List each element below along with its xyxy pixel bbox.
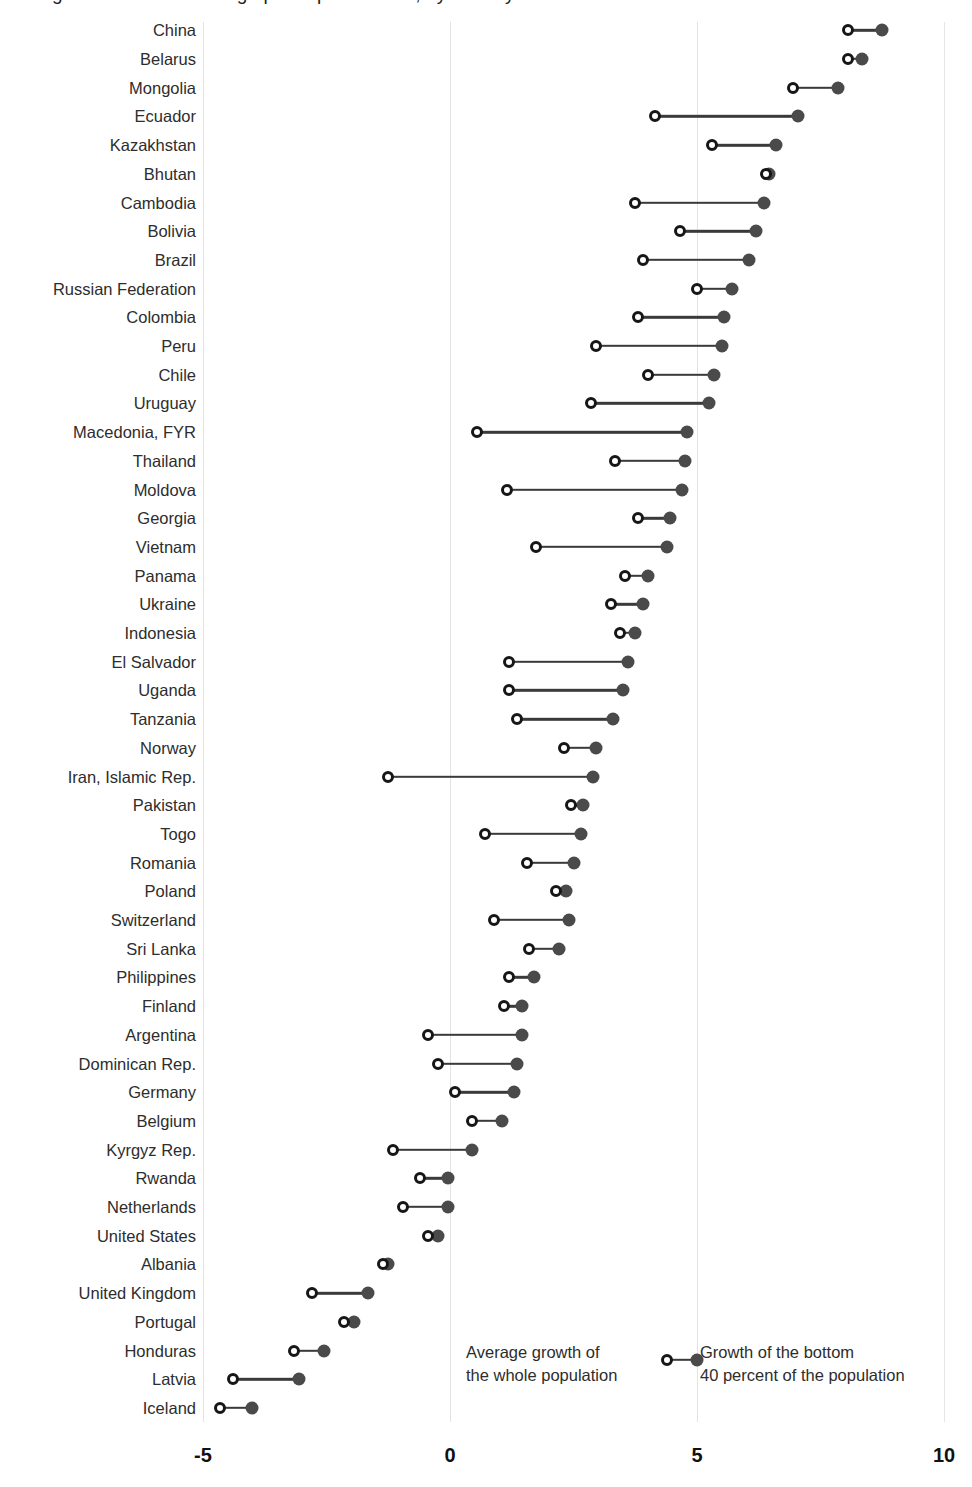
average-marker[interactable] [338, 1316, 350, 1328]
average-marker[interactable] [649, 110, 661, 122]
bottom40-marker[interactable] [587, 770, 600, 783]
country-label: Uganda [0, 681, 196, 700]
bottom40-marker[interactable] [725, 282, 738, 295]
average-marker[interactable] [842, 53, 854, 65]
country-label: Peru [0, 337, 196, 356]
bottom40-marker[interactable] [792, 110, 805, 123]
average-marker[interactable] [530, 541, 542, 553]
average-marker[interactable] [760, 168, 772, 180]
chart-row: Finland [0, 992, 972, 1021]
bottom40-marker[interactable] [661, 540, 674, 553]
bottom40-marker[interactable] [495, 1114, 508, 1127]
bottom40-marker[interactable] [589, 741, 602, 754]
average-marker[interactable] [619, 570, 631, 582]
bottom40-marker[interactable] [552, 942, 565, 955]
average-marker[interactable] [503, 656, 515, 668]
average-marker[interactable] [503, 971, 515, 983]
connector-line [455, 1091, 514, 1093]
average-marker[interactable] [498, 1000, 510, 1012]
average-marker[interactable] [306, 1287, 318, 1299]
bottom40-marker[interactable] [515, 1000, 528, 1013]
bottom40-marker[interactable] [703, 397, 716, 410]
bottom40-marker[interactable] [742, 253, 755, 266]
average-marker[interactable] [466, 1115, 478, 1127]
average-marker[interactable] [432, 1058, 444, 1070]
bottom40-marker[interactable] [527, 971, 540, 984]
average-marker[interactable] [488, 914, 500, 926]
average-marker[interactable] [521, 857, 533, 869]
bottom40-marker[interactable] [641, 569, 654, 582]
bottom40-marker[interactable] [629, 627, 642, 640]
average-marker[interactable] [479, 828, 491, 840]
average-marker[interactable] [227, 1373, 239, 1385]
average-marker[interactable] [787, 82, 799, 94]
bottom40-marker[interactable] [750, 225, 763, 238]
average-marker[interactable] [523, 943, 535, 955]
average-marker[interactable] [382, 771, 394, 783]
average-marker[interactable] [674, 225, 686, 237]
bottom40-marker[interactable] [246, 1401, 259, 1414]
average-marker[interactable] [585, 397, 597, 409]
average-marker[interactable] [632, 311, 644, 323]
average-marker[interactable] [691, 283, 703, 295]
average-marker[interactable] [414, 1172, 426, 1184]
average-marker[interactable] [397, 1201, 409, 1213]
bottom40-marker[interactable] [577, 799, 590, 812]
bottom40-marker[interactable] [510, 1057, 523, 1070]
average-marker[interactable] [503, 684, 515, 696]
bottom40-marker[interactable] [621, 655, 634, 668]
average-marker[interactable] [387, 1144, 399, 1156]
bottom40-marker[interactable] [293, 1373, 306, 1386]
average-marker[interactable] [550, 885, 562, 897]
bottom40-marker[interactable] [567, 856, 580, 869]
average-marker[interactable] [629, 197, 641, 209]
bottom40-marker[interactable] [708, 368, 721, 381]
bottom40-marker[interactable] [876, 24, 889, 37]
bottom40-marker[interactable] [715, 340, 728, 353]
average-marker[interactable] [605, 598, 617, 610]
bottom40-marker[interactable] [508, 1086, 521, 1099]
average-marker[interactable] [706, 139, 718, 151]
average-marker[interactable] [449, 1086, 461, 1098]
chart-row: Rwanda [0, 1164, 972, 1193]
average-marker[interactable] [377, 1258, 389, 1270]
connector-line [536, 546, 667, 548]
bottom40-marker[interactable] [676, 483, 689, 496]
average-marker[interactable] [642, 369, 654, 381]
average-marker[interactable] [471, 426, 483, 438]
bottom40-marker[interactable] [681, 426, 694, 439]
bottom40-marker[interactable] [362, 1287, 375, 1300]
bottom40-marker[interactable] [831, 81, 844, 94]
bottom40-marker[interactable] [466, 1143, 479, 1156]
bottom40-marker[interactable] [636, 598, 649, 611]
bottom40-marker[interactable] [574, 827, 587, 840]
chart-row: Macedonia, FYR [0, 418, 972, 447]
bottom40-marker[interactable] [515, 1028, 528, 1041]
average-marker[interactable] [288, 1345, 300, 1357]
bottom40-marker[interactable] [441, 1172, 454, 1185]
average-marker[interactable] [214, 1402, 226, 1414]
average-marker[interactable] [842, 24, 854, 36]
average-marker[interactable] [422, 1230, 434, 1242]
bottom40-marker[interactable] [441, 1201, 454, 1214]
bottom40-marker[interactable] [562, 914, 575, 927]
bottom40-marker[interactable] [856, 53, 869, 66]
average-marker[interactable] [565, 799, 577, 811]
bottom40-marker[interactable] [678, 454, 691, 467]
bottom40-marker[interactable] [616, 684, 629, 697]
average-marker[interactable] [637, 254, 649, 266]
bottom40-marker[interactable] [318, 1344, 331, 1357]
bottom40-marker[interactable] [718, 311, 731, 324]
bottom40-marker[interactable] [757, 196, 770, 209]
bottom40-marker[interactable] [607, 713, 620, 726]
average-marker[interactable] [422, 1029, 434, 1041]
average-marker[interactable] [632, 512, 644, 524]
average-marker[interactable] [609, 455, 621, 467]
average-marker[interactable] [614, 627, 626, 639]
bottom40-marker[interactable] [663, 512, 676, 525]
bottom40-marker[interactable] [770, 139, 783, 152]
average-marker[interactable] [501, 484, 513, 496]
average-marker[interactable] [558, 742, 570, 754]
average-marker[interactable] [511, 713, 523, 725]
average-marker[interactable] [590, 340, 602, 352]
